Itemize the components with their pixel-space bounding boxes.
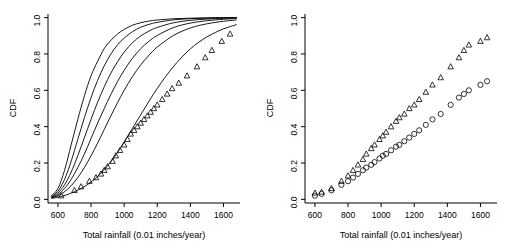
y-tick-label: 0.6	[32, 87, 42, 99]
x-tick-label: 1200	[405, 210, 424, 220]
triangle-marker	[438, 75, 444, 80]
cdf-curve	[51, 18, 236, 197]
x-tick-label: 1600	[214, 210, 233, 220]
triangle-marker	[388, 124, 394, 129]
circle-marker	[402, 139, 407, 144]
circle-marker	[360, 168, 365, 173]
circle-marker	[430, 117, 435, 122]
circle-marker	[461, 91, 466, 96]
circle-marker	[456, 95, 461, 100]
triangle-marker	[430, 82, 436, 87]
circle-marker	[350, 175, 355, 180]
triangle-marker	[380, 133, 386, 138]
left-panel-plot: 0.00.20.40.60.81.0 600800100012001400160…	[0, 0, 256, 251]
circle-marker	[484, 79, 489, 84]
right-x-axis-label: Total rainfall (0.01 inches/year)	[340, 230, 463, 240]
circle-marker	[388, 148, 393, 153]
triangle-marker	[164, 91, 170, 96]
x-tick-label: 1200	[148, 210, 167, 220]
triangle-marker	[154, 102, 160, 107]
y-tick-label: 1.0	[32, 14, 42, 26]
y-tick-label: 0.8	[32, 51, 42, 63]
triangle-marker	[138, 120, 144, 125]
triangle-marker	[484, 35, 490, 40]
triangle-marker	[466, 42, 472, 47]
triangle-marker	[169, 86, 175, 91]
triangle-marker	[125, 136, 131, 141]
left-x-axis-label: Total rainfall (0.01 inches/year)	[83, 230, 206, 240]
right-data-points	[312, 35, 490, 199]
triangle-marker	[360, 156, 366, 161]
cdf-curve	[51, 19, 236, 198]
triangle-marker	[194, 64, 200, 69]
y-tick-label: 0.2	[32, 160, 42, 172]
triangle-marker	[423, 89, 429, 94]
circle-marker	[345, 179, 350, 184]
triangle-marker	[478, 38, 484, 43]
y-tick-label: 0.6	[289, 87, 299, 99]
triangle-marker	[355, 162, 361, 167]
y-tick-label: 1.0	[289, 14, 299, 26]
right-x-ticks: 6008001000120014001600	[308, 203, 490, 220]
circle-marker	[372, 160, 377, 165]
x-tick-label: 1000	[115, 210, 134, 220]
left-panel: 0.00.20.40.60.81.0 600800100012001400160…	[0, 0, 256, 251]
triangle-marker	[372, 142, 378, 147]
triangle-marker	[135, 124, 141, 129]
triangle-marker	[145, 113, 151, 118]
triangle-marker	[227, 31, 233, 36]
circle-marker	[466, 88, 471, 93]
y-tick-label: 0.0	[289, 196, 299, 208]
left-curves	[51, 18, 236, 199]
triangle-marker	[209, 47, 215, 52]
triangle-marker	[461, 47, 467, 52]
left-data-points	[58, 31, 232, 198]
y-tick-label: 0.4	[289, 123, 299, 135]
cdf-curve	[51, 18, 236, 196]
cdf-curve	[51, 18, 236, 197]
y-tick-label: 0.0	[32, 196, 42, 208]
circle-marker	[448, 102, 453, 107]
triangle-marker	[141, 116, 147, 121]
triangle-marker	[184, 73, 190, 78]
x-tick-label: 1600	[471, 210, 490, 220]
right-panel: 0.00.20.40.60.81.0 600800100012001400160…	[257, 0, 513, 251]
figure-container: 0.00.20.40.60.81.0 600800100012001400160…	[0, 0, 513, 251]
left-x-ticks: 6008001000120014001600	[51, 203, 233, 220]
triangle-marker	[148, 109, 154, 114]
x-tick-label: 1400	[181, 210, 200, 220]
circle-marker	[407, 135, 412, 140]
triangle-marker	[368, 145, 374, 150]
triangle-marker	[87, 178, 93, 183]
x-tick-label: 1400	[438, 210, 457, 220]
x-tick-label: 600	[51, 210, 65, 220]
triangle-marker	[407, 106, 413, 111]
circle-marker	[355, 171, 360, 176]
left-y-axis-label: CDF	[8, 98, 18, 117]
circle-marker	[377, 156, 382, 161]
circle-marker	[312, 193, 317, 198]
triangle-marker	[350, 167, 356, 172]
right-y-ticks: 0.00.20.40.60.81.0	[289, 14, 305, 208]
cdf-curve	[51, 25, 236, 199]
triangle-marker	[416, 96, 422, 101]
triangle-marker	[117, 147, 123, 152]
circle-marker	[369, 162, 374, 167]
circle-marker	[364, 165, 369, 170]
right-panel-plot: 0.00.20.40.60.81.0 600800100012001400160…	[257, 0, 513, 251]
y-tick-label: 0.2	[289, 160, 299, 172]
triangle-marker	[456, 55, 462, 60]
triangle-marker	[202, 55, 208, 60]
triangle-marker	[93, 175, 99, 180]
triangle-marker	[397, 115, 403, 120]
triangle-marker	[402, 111, 408, 116]
circle-marker	[478, 82, 483, 87]
triangle-marker	[176, 80, 182, 85]
y-tick-label: 0.4	[32, 123, 42, 135]
circle-marker	[438, 111, 443, 116]
circle-marker	[412, 131, 417, 136]
triangle-marker	[128, 131, 134, 136]
triangle-marker	[393, 118, 399, 123]
triangle-marker	[377, 136, 383, 141]
triangle-marker	[159, 96, 165, 101]
